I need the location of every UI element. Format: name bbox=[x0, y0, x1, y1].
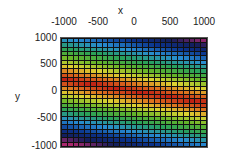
heatmap-cell bbox=[114, 121, 119, 124]
heatmap-cell bbox=[184, 117, 189, 120]
heatmap-cell bbox=[85, 138, 90, 141]
heatmap-cell bbox=[85, 130, 90, 133]
heatmap-cell bbox=[79, 78, 84, 81]
heatmap-cell bbox=[161, 74, 166, 77]
heatmap-cell bbox=[97, 78, 102, 81]
heatmap-cell bbox=[68, 143, 73, 146]
heatmap-cell bbox=[85, 104, 90, 107]
heatmap-cell bbox=[114, 117, 119, 120]
heatmap-cell bbox=[190, 125, 195, 128]
heatmap-cell bbox=[132, 104, 137, 107]
heatmap-cell bbox=[201, 56, 206, 59]
x-axis-label: x bbox=[118, 6, 123, 16]
heatmap-cell bbox=[195, 99, 200, 102]
heatmap-cell bbox=[190, 143, 195, 146]
heatmap-cell bbox=[120, 65, 125, 68]
heatmap-cell bbox=[126, 78, 131, 81]
heatmap-cell bbox=[166, 69, 171, 72]
heatmap-cell bbox=[91, 78, 96, 81]
heatmap-cell bbox=[68, 134, 73, 137]
heatmap-cell bbox=[201, 39, 206, 42]
heatmap-cell bbox=[114, 125, 119, 128]
heatmap-cell bbox=[161, 56, 166, 59]
heatmap-cell bbox=[166, 121, 171, 124]
heatmap-cell bbox=[68, 52, 73, 55]
heatmap-cell bbox=[137, 43, 142, 46]
heatmap-cell bbox=[97, 134, 102, 137]
heatmap-cell bbox=[190, 82, 195, 85]
heatmap-cell bbox=[172, 95, 177, 98]
heatmap-cell bbox=[190, 65, 195, 68]
heatmap-cell bbox=[178, 125, 183, 128]
heatmap-cell bbox=[201, 117, 206, 120]
heatmap-cell bbox=[172, 82, 177, 85]
heatmap-cell bbox=[97, 87, 102, 90]
heatmap-cell bbox=[120, 48, 125, 51]
heatmap-cell bbox=[103, 65, 108, 68]
heatmap-grid bbox=[61, 38, 207, 147]
heatmap-cell bbox=[62, 52, 67, 55]
heatmap-cell bbox=[143, 104, 148, 107]
heatmap-cell bbox=[91, 82, 96, 85]
heatmap-cell bbox=[184, 52, 189, 55]
heatmap-cell bbox=[85, 43, 90, 46]
heatmap-cell bbox=[172, 52, 177, 55]
heatmap-cell bbox=[143, 125, 148, 128]
heatmap-cell bbox=[120, 82, 125, 85]
heatmap-cell bbox=[74, 56, 79, 59]
heatmap-cell bbox=[103, 138, 108, 141]
heatmap-cell bbox=[74, 91, 79, 94]
heatmap-cell bbox=[97, 138, 102, 141]
heatmap-cell bbox=[97, 108, 102, 111]
heatmap-cell bbox=[149, 87, 154, 90]
heatmap-cell bbox=[91, 43, 96, 46]
heatmap-cell bbox=[79, 74, 84, 77]
heatmap-cell bbox=[190, 48, 195, 51]
heatmap-cell bbox=[114, 78, 119, 81]
heatmap-cell bbox=[166, 117, 171, 120]
heatmap-cell bbox=[114, 74, 119, 77]
heatmap-cell bbox=[68, 69, 73, 72]
heatmap-cell bbox=[62, 138, 67, 141]
heatmap-cell bbox=[120, 134, 125, 137]
heatmap-cell bbox=[149, 125, 154, 128]
heatmap-cell bbox=[120, 74, 125, 77]
heatmap-cell bbox=[178, 69, 183, 72]
heatmap-cell bbox=[166, 95, 171, 98]
heatmap-cell bbox=[85, 87, 90, 90]
heatmap-cell bbox=[143, 69, 148, 72]
heatmap-cell bbox=[68, 48, 73, 51]
heatmap-cell bbox=[79, 143, 84, 146]
heatmap-cell bbox=[190, 121, 195, 124]
heatmap-cell bbox=[155, 138, 160, 141]
heatmap-cell bbox=[79, 91, 84, 94]
heatmap-cell bbox=[161, 99, 166, 102]
heatmap-cell bbox=[184, 87, 189, 90]
heatmap-cell bbox=[190, 87, 195, 90]
heatmap-cell bbox=[97, 112, 102, 115]
heatmap-cell bbox=[178, 99, 183, 102]
heatmap-cell bbox=[172, 48, 177, 51]
heatmap-cell bbox=[114, 61, 119, 64]
heatmap-cell bbox=[137, 134, 142, 137]
heatmap-cell bbox=[74, 61, 79, 64]
heatmap-cell bbox=[103, 134, 108, 137]
heatmap-cell bbox=[137, 99, 142, 102]
heatmap-cell bbox=[120, 43, 125, 46]
heatmap-cell bbox=[103, 130, 108, 133]
heatmap-cell bbox=[149, 43, 154, 46]
heatmap-cell bbox=[178, 104, 183, 107]
heatmap-cell bbox=[85, 48, 90, 51]
heatmap-cell bbox=[149, 52, 154, 55]
heatmap-cell bbox=[149, 69, 154, 72]
heatmap-cell bbox=[155, 130, 160, 133]
heatmap-cell bbox=[190, 91, 195, 94]
heatmap-cell bbox=[155, 74, 160, 77]
heatmap-cell bbox=[126, 74, 131, 77]
heatmap-cell bbox=[178, 121, 183, 124]
heatmap-cell bbox=[166, 87, 171, 90]
heatmap-cell bbox=[85, 78, 90, 81]
heatmap-cell bbox=[120, 87, 125, 90]
heatmap-cell bbox=[149, 99, 154, 102]
heatmap-cell bbox=[114, 48, 119, 51]
